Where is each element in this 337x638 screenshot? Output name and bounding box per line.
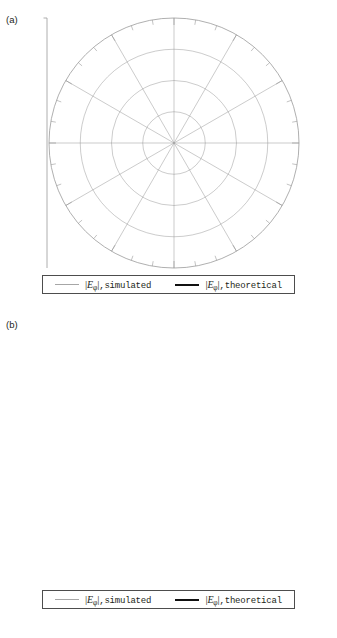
legend-text-simulated: ,simulated (99, 281, 151, 291)
grid-minor-tick (131, 26, 133, 31)
grid-major-tick (66, 202, 72, 206)
grid-minor-tick (78, 63, 82, 66)
legend-label-simulated: |Eφ|,simulated (85, 278, 151, 292)
grid-spoke (174, 143, 237, 251)
legend-swatch-theoretical-line (175, 599, 199, 601)
grid-minor-tick (251, 235, 254, 239)
grid-spoke (174, 35, 237, 143)
legend-entry-theoretical: |Eφ|,theoretical (175, 278, 282, 292)
grid-spoke (174, 81, 282, 144)
grid-minor-tick (94, 47, 97, 51)
grid-minor-tick (287, 184, 292, 186)
grid-minor-tick (266, 63, 270, 66)
grid-minor-tick (215, 256, 217, 261)
legend-label-theoretical: |Eφ|,theoretical (205, 593, 282, 607)
grid-spoke (112, 35, 175, 143)
grid-major-tick (66, 81, 72, 85)
grid-spoke (66, 81, 174, 144)
radial-axis (44, 18, 48, 268)
grid-minor-tick (266, 220, 270, 223)
grid-minor-tick (152, 20, 153, 25)
grid-minor-tick (195, 261, 196, 266)
legend-entry-simulated: |Eφ|,simulated (55, 278, 151, 292)
grid-spoke (174, 143, 282, 206)
grid-minor-tick (131, 256, 133, 261)
grid-minor-tick (292, 121, 297, 122)
grid-minor-tick (51, 121, 56, 122)
grid-minor-tick (251, 47, 254, 51)
grid-major-tick (233, 35, 237, 41)
grid-minor-tick (57, 184, 62, 186)
legend-label-simulated: |Eφ|,simulated (85, 593, 151, 607)
grid-minor-tick (215, 26, 217, 31)
legend-label-theoretical: |Eφ|,theoretical (205, 278, 282, 292)
grid-minor-tick (94, 235, 97, 239)
panel-a-letter: (a) (6, 14, 18, 25)
panel-b: (b) |Eφ|,simulated |Eφ|,theoretical (0, 303, 337, 638)
legend-text-theoretical: ,theoretical (219, 596, 281, 606)
legend-swatch-simulated-line (55, 284, 79, 285)
legend-swatch-simulated-line (55, 599, 79, 600)
grid-minor-tick (51, 164, 56, 165)
polar-plot-b (0, 303, 337, 593)
grid-minor-tick (152, 261, 153, 266)
grid-spoke (66, 143, 174, 206)
legend-text-simulated: ,simulated (99, 596, 151, 606)
grid-minor-tick (78, 220, 82, 223)
polar-plot-a (0, 0, 337, 285)
legend-swatch-theoretical-line (175, 284, 199, 286)
grid-major-tick (112, 245, 116, 251)
grid-minor-tick (195, 20, 196, 25)
polar-grid (49, 18, 299, 268)
legend-text-theoretical: ,theoretical (219, 281, 281, 291)
panel-a: (a) |Eφ|,simulated |Eφ|,theoretical (0, 0, 337, 303)
grid-major-tick (276, 202, 282, 206)
legend-entry-theoretical: |Eφ|,theoretical (175, 593, 282, 607)
grid-minor-tick (292, 164, 297, 165)
grid-major-tick (276, 81, 282, 85)
grid-minor-tick (57, 100, 62, 102)
grid-major-tick (112, 35, 116, 41)
legend-entry-simulated: |Eφ|,simulated (55, 593, 151, 607)
legend-b: |Eφ|,simulated |Eφ|,theoretical (42, 590, 295, 609)
grid-minor-tick (287, 100, 292, 102)
grid-major-tick (233, 245, 237, 251)
panel-b-letter: (b) (6, 319, 18, 330)
legend-a: |Eφ|,simulated |Eφ|,theoretical (42, 275, 295, 294)
grid-spoke (112, 143, 175, 251)
